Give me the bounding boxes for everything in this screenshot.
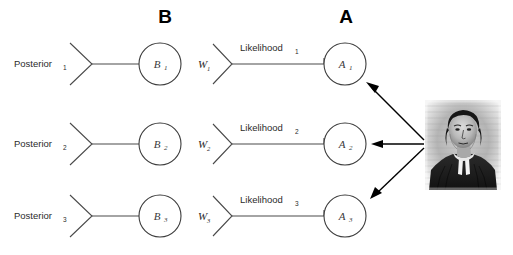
arrow-to-a1-head bbox=[366, 82, 379, 93]
column-header-b: B bbox=[158, 6, 172, 27]
diagram-canvas: B A Posterior 1 B 1 W 1 Likelihood 1 bbox=[0, 0, 513, 255]
arrow-to-a2 bbox=[371, 140, 424, 148]
arrow-to-a3-line bbox=[377, 148, 424, 193]
posterior-fork-3 bbox=[70, 195, 92, 237]
node-a-label-2: A bbox=[338, 138, 346, 150]
posterior-label-2: Posterior bbox=[14, 138, 52, 149]
weight-fork-3 bbox=[213, 196, 232, 236]
arrow-to-a1-line bbox=[372, 88, 424, 140]
posterior-label-1: Posterior bbox=[14, 58, 52, 69]
node-b-label-3: B bbox=[154, 210, 161, 222]
weight-fork-2 bbox=[213, 124, 232, 164]
weight-fork-1 bbox=[213, 44, 232, 84]
posterior-label-3: Posterior bbox=[14, 210, 52, 221]
node-b-label-1: B bbox=[154, 58, 161, 70]
posterior-subscript-1: 1 bbox=[63, 64, 67, 71]
node-b-label-2: B bbox=[154, 138, 161, 150]
likelihood-label-2: Likelihood bbox=[240, 122, 283, 133]
portrait-eye-right bbox=[467, 128, 471, 131]
likelihood-subscript-2: 2 bbox=[295, 128, 299, 135]
thomas-bayes-portrait bbox=[425, 100, 501, 190]
weight-subscript-3: 3 bbox=[206, 217, 211, 224]
node-a-label-3: A bbox=[338, 210, 346, 222]
posterior-subscript-2: 2 bbox=[63, 144, 67, 151]
likelihood-subscript-3: 3 bbox=[295, 200, 299, 207]
likelihood-label-3: Likelihood bbox=[240, 194, 283, 205]
posterior-subscript-3: 3 bbox=[63, 216, 67, 223]
posterior-fork-1 bbox=[70, 43, 92, 85]
node-b-subscript-2: 2 bbox=[164, 144, 168, 152]
row-3: Posterior 3 B 3 W 3 Likelihood 3 A 3 bbox=[14, 194, 366, 237]
portrait-eye-left bbox=[455, 128, 459, 131]
node-a-subscript-2: 2 bbox=[349, 144, 353, 152]
node-b-subscript-1: 1 bbox=[164, 64, 168, 72]
arrow-to-a3-head bbox=[370, 187, 382, 199]
weight-subscript-1: 1 bbox=[207, 65, 210, 72]
row-2: Posterior 2 B 2 W 2 Likelihood 2 A 2 bbox=[14, 122, 366, 165]
node-a-subscript-1: 1 bbox=[349, 64, 353, 72]
portrait-artwork bbox=[425, 100, 501, 190]
row-1: Posterior 1 B 1 W 1 Likelihood 1 A 1 bbox=[14, 42, 366, 85]
node-b-subscript-3: 3 bbox=[163, 216, 168, 224]
likelihood-subscript-1: 1 bbox=[295, 48, 299, 55]
node-a-subscript-3: 3 bbox=[348, 216, 353, 224]
arrow-to-a1 bbox=[366, 82, 424, 140]
column-header-a: A bbox=[339, 6, 353, 27]
weight-subscript-2: 2 bbox=[207, 145, 211, 152]
arrow-to-a2-head bbox=[371, 140, 383, 148]
posterior-fork-2 bbox=[70, 123, 92, 165]
node-a-label-1: A bbox=[338, 58, 346, 70]
likelihood-label-1: Likelihood bbox=[240, 42, 283, 53]
arrow-to-a3 bbox=[370, 148, 424, 199]
